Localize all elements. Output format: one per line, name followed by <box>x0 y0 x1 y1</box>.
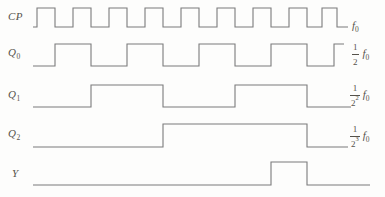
freq-label-half-f0: 1 2 f0 <box>351 43 369 67</box>
freq-label-eighth-f0: 1 23 f0 <box>350 125 370 149</box>
half-f0-text: f0 <box>363 48 370 62</box>
q0-waveform <box>33 44 344 66</box>
freq-label-f0: f0 <box>352 20 359 34</box>
q1-label-sub: 1 <box>16 94 20 103</box>
q2-waveform <box>33 124 348 147</box>
signal-label-q0: Q0 <box>8 47 21 61</box>
f0-text: f0 <box>352 20 359 34</box>
cp-label-text: CP <box>8 10 23 22</box>
signal-label-q2: Q2 <box>8 128 21 142</box>
freq-label-quarter-f0: 1 22 f0 <box>350 84 370 108</box>
waveform-canvas <box>0 0 385 197</box>
half-fraction: 1 2 <box>351 43 360 67</box>
quarter-f0-text: f0 <box>363 89 370 103</box>
signal-label-q1: Q1 <box>8 89 21 103</box>
q0-label-sub: 0 <box>16 52 20 61</box>
quarter-fraction: 1 22 <box>350 84 360 108</box>
eighth-fraction: 1 23 <box>350 125 360 149</box>
y-waveform <box>33 162 370 185</box>
y-label-text: Y <box>12 167 19 179</box>
eighth-f0-text: f0 <box>363 130 370 144</box>
signal-label-cp: CP <box>8 11 23 25</box>
q2-label-sub: 2 <box>16 133 20 142</box>
cp-waveform <box>33 8 348 27</box>
timing-diagram: CP Q0 Q1 Q2 Y f0 1 2 f0 1 22 f0 1 23 f0 <box>0 0 385 197</box>
q1-waveform <box>33 85 351 107</box>
signal-label-y: Y <box>12 168 19 182</box>
